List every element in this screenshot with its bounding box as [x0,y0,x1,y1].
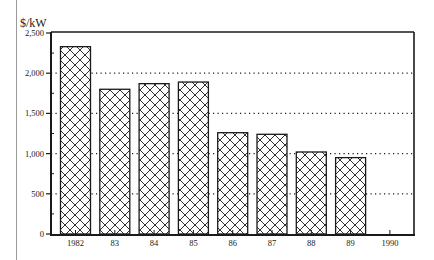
bar-86 [218,133,248,234]
y-tick-label: 2,000 [25,68,44,78]
bar-83 [100,89,130,234]
x-tick-label: 84 [150,238,159,248]
bar-89 [336,158,366,234]
y-tick-label: 500 [31,189,44,199]
y-axis: 05001,0001,5002,0002,500 [25,28,54,239]
bar-84 [139,84,169,234]
y-tick-label: 0 [40,229,44,239]
y-tick-label: 2,500 [25,28,44,38]
x-tick-label: 1990 [381,238,398,248]
x-tick-label: 89 [346,238,355,248]
bars [61,47,366,234]
bar-chart: 05001,0001,5002,0002,500 198283848586878… [0,0,434,260]
x-tick-label: 87 [268,238,277,248]
bar-87 [257,134,287,234]
bar-88 [296,152,326,234]
x-tick-label: 88 [307,238,316,248]
x-tick-label: 83 [111,238,120,248]
x-tick-label: 1982 [67,238,84,248]
y-tick-label: 1,000 [25,149,44,159]
x-tick-label: 85 [189,238,198,248]
bar-1982 [61,47,91,234]
x-tick-label: 86 [228,238,237,248]
bar-85 [178,82,208,234]
y-tick-label: 1,500 [25,108,44,118]
